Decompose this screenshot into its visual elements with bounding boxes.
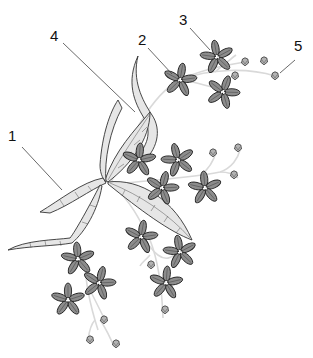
long-left-leaf — [8, 185, 102, 250]
leader-4 — [63, 43, 135, 112]
big-right-leaf — [108, 182, 192, 240]
leader-5 — [280, 60, 295, 73]
callout-5: 5 — [294, 38, 302, 53]
buds — [87, 57, 279, 348]
leader-1 — [22, 147, 62, 190]
leader-lines — [22, 28, 295, 190]
callout-2: 2 — [138, 32, 146, 47]
leaves — [8, 56, 192, 250]
callout-4: 4 — [50, 28, 58, 43]
stems — [85, 55, 275, 344]
flowers — [51, 37, 245, 316]
callout-1: 1 — [8, 128, 16, 143]
leader-3 — [190, 28, 210, 50]
diagram-svg — [0, 0, 313, 358]
leader-2 — [148, 48, 172, 74]
callout-3: 3 — [179, 12, 187, 27]
flower-2 — [160, 60, 200, 98]
embroidery-diagram: 1 2 3 4 5 — [0, 0, 313, 358]
